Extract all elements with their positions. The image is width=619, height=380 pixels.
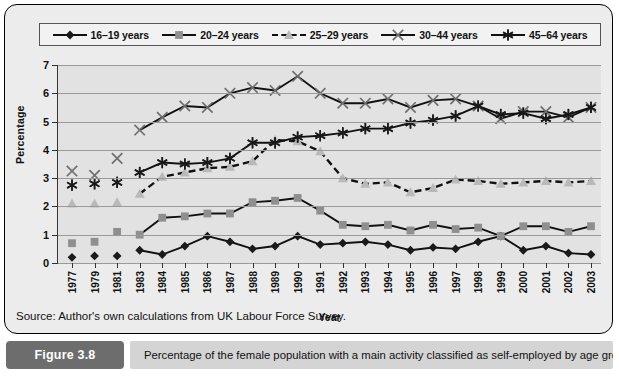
x-tick: [591, 263, 592, 268]
y-tick-label: 7: [43, 59, 49, 71]
data-point-square: [316, 207, 324, 215]
data-point-x: [338, 98, 348, 108]
data-point-diamond: [519, 246, 528, 255]
data-point-star: [248, 137, 258, 148]
x-tick-label: 1984: [157, 271, 168, 293]
data-point-star: [518, 107, 528, 118]
figure-number-badge: Figure 3.8: [6, 341, 124, 369]
data-point-triangle: [360, 179, 370, 188]
x-tick: [365, 263, 366, 268]
x-tick-label: 1998: [473, 271, 484, 293]
x-tick: [478, 263, 479, 268]
figure-container: 16–19 years20–24 years25–29 years30–44 y…: [0, 0, 619, 380]
x-tick: [207, 263, 208, 268]
data-point-x: [541, 106, 551, 116]
y-tick: [52, 150, 58, 151]
y-tick: [52, 263, 58, 264]
series-1: [68, 194, 595, 247]
data-point-diamond: [65, 30, 74, 39]
data-point-diamond: [451, 244, 460, 253]
data-point-diamond: [338, 239, 347, 248]
legend-marker-square-icon: [172, 28, 186, 42]
data-point-star: [90, 178, 100, 189]
data-point-triangle: [248, 156, 258, 165]
data-point-triangle: [293, 136, 303, 145]
legend-item-2[interactable]: 25–29 years: [272, 28, 368, 42]
data-point-star: [383, 123, 393, 134]
data-point-square: [181, 212, 189, 220]
data-point-diamond: [226, 237, 235, 246]
y-tick: [52, 206, 58, 207]
x-tick-label: 2003: [586, 271, 597, 293]
data-point-diamond: [68, 253, 77, 262]
data-point-square: [158, 214, 166, 222]
x-tick: [546, 263, 547, 268]
data-point-star: [586, 102, 596, 113]
legend-label: 25–29 years: [310, 29, 368, 41]
data-point-triangle: [157, 172, 167, 181]
series-line: [140, 106, 591, 172]
series-3: [67, 71, 596, 180]
data-point-triangle: [225, 162, 235, 171]
data-point-star: [496, 109, 506, 120]
x-tick: [298, 263, 299, 268]
data-point-diamond: [406, 246, 415, 255]
y-tick-label: 1: [43, 229, 49, 241]
data-point-x: [247, 82, 257, 92]
data-point-x: [393, 29, 403, 39]
data-point-diamond: [158, 250, 167, 259]
legend-item-3[interactable]: 30–44 years: [381, 28, 477, 42]
data-point-star: [293, 132, 303, 143]
data-point-diamond: [180, 242, 189, 251]
data-point-diamond: [248, 244, 257, 253]
data-point-square: [519, 222, 527, 230]
y-gridline: [58, 150, 601, 151]
x-tick: [410, 263, 411, 268]
data-point-square: [587, 222, 595, 230]
data-point-diamond: [293, 232, 302, 241]
data-point-square: [203, 210, 211, 218]
x-tick: [230, 263, 231, 268]
data-point-diamond: [271, 242, 280, 251]
x-tick: [388, 263, 389, 268]
data-point-square: [474, 224, 482, 232]
data-point-diamond: [474, 237, 483, 246]
data-point-square: [542, 222, 550, 230]
figure-caption-bar: Figure 3.8 Percentage of the female popu…: [6, 341, 613, 369]
data-point-star: [360, 123, 370, 134]
series-line: [140, 236, 591, 254]
y-tick-label: 5: [43, 116, 49, 128]
x-tick: [72, 263, 73, 268]
data-point-x: [586, 102, 596, 112]
data-point-x: [473, 101, 483, 111]
data-point-star: [67, 180, 77, 191]
data-point-star: [428, 115, 438, 126]
y-tick: [52, 178, 58, 179]
data-point-star: [503, 29, 513, 40]
data-point-diamond: [429, 243, 438, 252]
data-point-star: [564, 109, 574, 120]
data-point-star: [451, 110, 461, 121]
legend-label: 30–44 years: [419, 29, 477, 41]
legend-item-4[interactable]: 45–64 years: [491, 28, 587, 42]
legend-item-0[interactable]: 16–19 years: [53, 28, 149, 42]
x-tick: [117, 263, 118, 268]
x-tick-label: 1985: [180, 271, 191, 293]
x-tick: [523, 263, 524, 268]
y-gridline: [58, 178, 601, 179]
data-point-x: [134, 125, 144, 135]
data-point-diamond: [203, 232, 212, 241]
y-tick: [52, 93, 58, 94]
y-gridline: [58, 122, 601, 123]
legend-item-1[interactable]: 20–24 years: [162, 28, 258, 42]
data-point-diamond: [316, 240, 325, 249]
data-point-triangle: [405, 187, 415, 196]
data-point-diamond: [496, 232, 505, 241]
data-point-star: [270, 137, 280, 148]
data-point-x: [450, 94, 460, 104]
data-point-square: [407, 227, 415, 235]
y-gridline: [58, 235, 601, 236]
y-tick-label: 6: [43, 87, 49, 99]
x-tick-label: 1986: [202, 271, 213, 293]
legend-label: 20–24 years: [200, 29, 258, 41]
